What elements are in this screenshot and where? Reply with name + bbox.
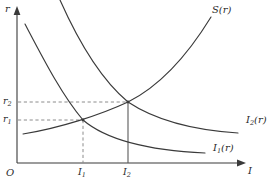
- curve-I1-arg: (r): [221, 142, 234, 153]
- x-tick-I1-subscript: 1: [82, 171, 86, 179]
- curve-S-arg: (r): [219, 4, 232, 15]
- x-axis-arrowhead: [237, 160, 246, 167]
- origin-label: O: [6, 168, 14, 178]
- y-axis-label: r: [5, 4, 10, 14]
- equilibrium-point-1: [82, 119, 85, 122]
- curve-S-base: S: [212, 4, 219, 15]
- y-axis-arrowhead: [14, 6, 21, 15]
- curve-S: [23, 17, 211, 134]
- y-tick-r2-subscript: 2: [8, 100, 12, 108]
- curve-I2: [60, 0, 238, 133]
- diagram-canvas: [0, 0, 278, 192]
- x-tick-label-I2: I2: [123, 167, 131, 179]
- curve-I1: [25, 24, 205, 153]
- curve-I2-arg: (r): [254, 114, 267, 125]
- x-axis-label: I: [248, 166, 252, 176]
- x-tick-label-I1: I1: [78, 167, 86, 179]
- investment-savings-diagram: r I O r2 r1 I1 I2 S(r) I2(r) I1(r): [0, 0, 278, 192]
- curves-group: [23, 0, 238, 153]
- y-tick-label-r1: r1: [3, 114, 12, 126]
- curve-label-I1: I1(r): [213, 143, 234, 155]
- curve-label-S: S(r): [212, 5, 231, 15]
- y-tick-label-r2: r2: [3, 96, 12, 108]
- equilibrium-point-2: [127, 101, 130, 104]
- x-tick-I2-subscript: 2: [127, 171, 131, 179]
- curve-label-I2: I2(r): [246, 115, 267, 127]
- y-tick-r1-subscript: 1: [8, 118, 12, 126]
